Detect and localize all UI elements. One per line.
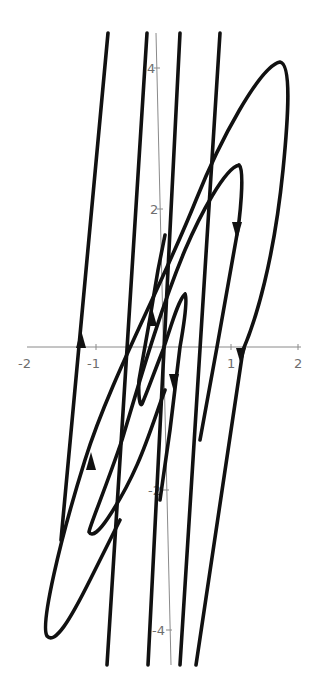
trajectory-line-1: [107, 33, 147, 665]
y-tick-label: 2: [150, 202, 158, 217]
x-tick-label: 1: [227, 356, 235, 371]
x-tick-label: 2: [294, 356, 302, 371]
phase-portrait-plot: -2 -1 1 2 4 2 -2 -4: [0, 0, 318, 690]
arrow-up-icon: [76, 330, 86, 348]
x-tick-label: -2: [18, 356, 31, 371]
trajectory-line-3: [180, 33, 220, 665]
y-tick-label: -4: [152, 623, 165, 638]
arrow-down-icon: [236, 348, 246, 365]
arrow-down-icon: [169, 374, 179, 392]
y-tick-label: 4: [147, 61, 155, 76]
outer-loop: [46, 62, 288, 665]
arrow-down-icon: [232, 222, 242, 240]
x-tick-label: -1: [87, 356, 100, 371]
